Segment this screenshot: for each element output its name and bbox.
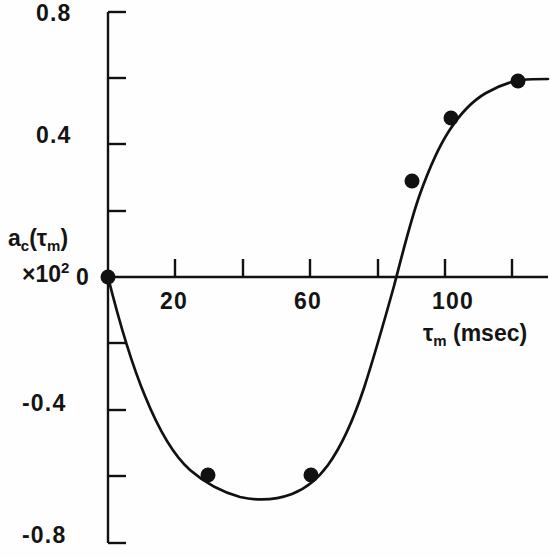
chart-figure: 0.8 0.4 0 -0.4 -0.8 20 60 100 ac(τm) ×10… (0, 0, 559, 557)
data-point (405, 174, 420, 189)
y-axis-title-line1: ac(τm) (8, 225, 68, 251)
x-tick-label-60: 60 (294, 288, 322, 315)
y-axis-symbol-a: a (8, 225, 21, 251)
data-point (511, 74, 526, 89)
data-point (101, 270, 116, 285)
x-axis-subscript-m: m (433, 332, 446, 349)
y-axis-subscript-c: c (21, 237, 29, 254)
y-tick-label-0: 0 (76, 264, 90, 291)
x-axis-symbol-tau: τ (423, 320, 433, 346)
y-axis-close-paren: ) (60, 225, 68, 251)
x-axis-title: τm (msec) (423, 320, 527, 349)
y-axis-title: ac(τm) ×102 (8, 222, 69, 291)
y-tick-label--0.4: -0.4 (22, 390, 66, 417)
y-tick-label-0.4: 0.4 (36, 122, 72, 149)
x-axis-unit: (msec) (453, 320, 527, 346)
y-axis-open-tau: (τ (29, 225, 47, 251)
y-axis-subscript-m: m (47, 237, 60, 254)
y-axis-title-line2: ×102 (8, 257, 69, 292)
y-axis-scale-factor: ×10 (22, 261, 61, 287)
y-tick-label-0.8: 0.8 (36, 0, 72, 27)
y-tick-label--0.8: -0.8 (22, 522, 66, 549)
x-tick-label-100: 100 (432, 288, 474, 315)
x-axis-ticks (175, 259, 512, 277)
x-tick-label-20: 20 (160, 288, 188, 315)
data-point (444, 111, 459, 126)
y-axis-scale-exponent: 2 (61, 259, 69, 276)
data-point (201, 468, 216, 483)
data-point (304, 468, 319, 483)
